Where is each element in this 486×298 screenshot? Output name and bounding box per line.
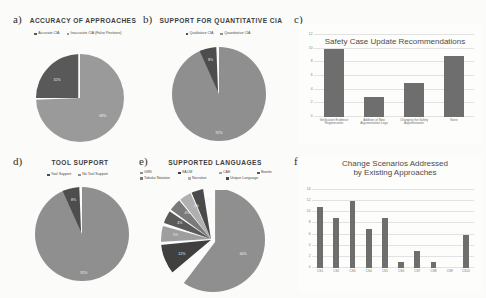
panel-f-chart-title: Change Scenarios Addressed by Existing A… bbox=[320, 160, 470, 178]
y-tick-label: 0 bbox=[311, 114, 313, 118]
x-axis-label: Addition of New Argumentation Legs bbox=[355, 119, 393, 126]
panel-d: d) TOOL SUPPORT Tool Support No Tool Sup… bbox=[0, 148, 140, 298]
pie-label-gsn: 64% bbox=[240, 252, 247, 256]
legend-label: SACM bbox=[182, 171, 192, 175]
x-axis-label: Verification Evidence Regeneration bbox=[315, 119, 353, 126]
x-axis-label: CS8 bbox=[426, 270, 442, 274]
bar bbox=[444, 56, 465, 118]
panel-a: a) ACCURACY OF APPROACHES Accurate CIA I… bbox=[0, 0, 150, 148]
y-tick-label: 6 bbox=[309, 232, 311, 236]
panel-d-legend: Tool Support No Tool Support bbox=[25, 173, 130, 177]
panel-b: b) SUPPORT FOR QUANTITATIVE CIA Qualitat… bbox=[140, 0, 292, 148]
pie-label-narrative: 4% bbox=[194, 204, 199, 208]
legend-label: GSN bbox=[144, 171, 152, 175]
panel-d-letter: d) bbox=[13, 155, 22, 167]
x-axis-label: CS3 bbox=[345, 270, 361, 274]
legend-swatch bbox=[34, 33, 37, 36]
y-tick-label: 0 bbox=[309, 265, 311, 269]
pie-label-tabular-notation: 4% bbox=[184, 211, 189, 215]
pie-label-qualitative: 8% bbox=[208, 58, 213, 62]
pie-label-quantitative: 92% bbox=[215, 131, 222, 135]
y-tick-label: 2 bbox=[309, 254, 311, 258]
panel-f-barchart: Change Scenarios Addressed by Existing A… bbox=[298, 156, 482, 292]
panel-e-legend: GSN SACM CAE Bowtie Tabular Notation Nar… bbox=[140, 171, 290, 180]
legend-item: GSN bbox=[140, 171, 170, 175]
legend-item: Tool Support bbox=[47, 173, 71, 177]
x-axis-label: CS6 bbox=[393, 270, 409, 274]
legend-label: CAE bbox=[223, 171, 230, 175]
legend-swatch bbox=[257, 172, 260, 175]
panel-f: f) Change Scenarios Addressed by Existin… bbox=[292, 148, 486, 298]
y-tick-label: 8 bbox=[309, 220, 311, 224]
legend-item: Tabular Notation bbox=[140, 177, 180, 181]
y-tick-label: 4 bbox=[311, 87, 313, 91]
bar bbox=[317, 207, 323, 268]
legend-label: Tool Support bbox=[51, 173, 71, 177]
panel-a-title: ACCURACY OF APPROACHES bbox=[28, 17, 138, 24]
bar bbox=[398, 262, 404, 268]
gridline: 14 bbox=[312, 189, 474, 190]
pie-label-inaccurate: 68% bbox=[99, 114, 106, 118]
x-axis-label: Changing the Safety Argumentation bbox=[395, 119, 433, 126]
legend-item: Unique Language bbox=[226, 177, 258, 181]
x-axis-label: CS5 bbox=[377, 270, 393, 274]
legend-label: Bowtie bbox=[261, 171, 272, 175]
legend-label: Accurate CIA bbox=[38, 32, 59, 36]
legend-label: Unique Language bbox=[230, 177, 258, 181]
pie-slice-quantitative bbox=[172, 47, 266, 141]
bar bbox=[463, 235, 469, 268]
y-tick-label: 12 bbox=[309, 32, 313, 36]
legend-item: Bowtie bbox=[257, 171, 285, 175]
panel-b-pie: 8% 92% bbox=[172, 47, 266, 141]
pie-slice-no-tool-support bbox=[35, 187, 129, 281]
panel-f-plot-area: 0 2 4 6 8 10 12 14 CS1 CS2 C bbox=[312, 190, 474, 268]
pie-label-unique-language: 4% bbox=[206, 198, 211, 202]
legend-swatch bbox=[78, 174, 81, 177]
panel-b-title: SUPPORT FOR QUANTITATIVE CIA bbox=[156, 17, 286, 24]
panel-c-barchart: Safety Case Update Recommendations 0 2 4… bbox=[298, 24, 482, 144]
x-axis-label: CS2 bbox=[328, 270, 344, 274]
legend-item: CAE bbox=[219, 171, 249, 175]
x-axis-label: CS4 bbox=[361, 270, 377, 274]
bar bbox=[431, 262, 437, 268]
panel-e-pie: 64% 12% 5% 4% 4% 4% 4% bbox=[161, 188, 265, 292]
bar bbox=[324, 49, 345, 117]
legend-item: Narrative bbox=[188, 177, 218, 181]
figure-sheet: a) ACCURACY OF APPROACHES Accurate CIA I… bbox=[0, 0, 486, 298]
panel-e-letter: e) bbox=[139, 155, 148, 167]
legend-item: No Tool Support bbox=[78, 173, 108, 177]
legend-swatch bbox=[188, 177, 191, 180]
x-axis-label: CS7 bbox=[409, 270, 425, 274]
y-tick-label: 4 bbox=[309, 243, 311, 247]
legend-swatch bbox=[220, 33, 223, 36]
bar bbox=[364, 97, 385, 118]
legend-label: Tabular Notation bbox=[144, 177, 170, 181]
bar bbox=[404, 83, 425, 117]
bar bbox=[382, 218, 388, 268]
panel-b-legend: Qualitative CIA Quantitative CIA bbox=[158, 32, 278, 36]
y-tick-label: 14 bbox=[307, 187, 311, 191]
y-tick-label: 10 bbox=[307, 209, 311, 213]
legend-swatch bbox=[226, 177, 229, 180]
legend-label: Inaccurate CIA (False Positives) bbox=[70, 32, 121, 36]
panel-d-title: TOOL SUPPORT bbox=[30, 159, 130, 166]
pie-label-cae: 5% bbox=[173, 233, 178, 237]
legend-swatch bbox=[140, 177, 143, 180]
panel-e: e) SUPPORTED LANGUAGES GSN SACM CAE Bowt… bbox=[135, 148, 293, 298]
panel-c-plot-area: 0 2 4 6 8 10 12 Verification Evidence Re… bbox=[314, 35, 474, 117]
legend-label: Qualitative CIA bbox=[189, 32, 213, 36]
bar bbox=[333, 218, 339, 268]
legend-item: Quantitative CIA bbox=[220, 32, 250, 36]
legend-item: SACM bbox=[178, 171, 211, 175]
x-axis-label: CS9 bbox=[442, 270, 458, 274]
legend-swatch bbox=[219, 172, 222, 175]
x-axis-label: None bbox=[435, 119, 473, 123]
legend-label: No Tool Support bbox=[82, 173, 108, 177]
x-axis-label: CS1 bbox=[312, 270, 328, 274]
gridline: 12 bbox=[314, 34, 474, 35]
legend-swatch bbox=[67, 33, 70, 36]
pie-label-accurate: 32% bbox=[54, 78, 61, 82]
panel-d-pie: 8% 92% bbox=[35, 187, 129, 281]
legend-item: Accurate CIA bbox=[34, 32, 59, 36]
panel-e-title: SUPPORTED LANGUAGES bbox=[157, 159, 273, 166]
